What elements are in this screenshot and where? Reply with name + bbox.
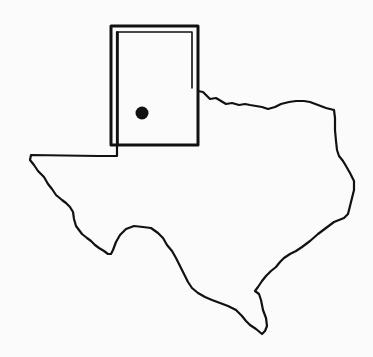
location-marker-dot xyxy=(136,107,149,120)
texas-map xyxy=(0,0,373,357)
